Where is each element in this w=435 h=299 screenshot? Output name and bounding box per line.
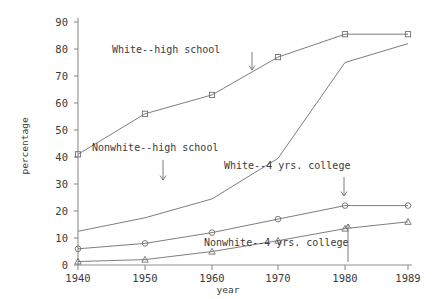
annotation-label: White--high school — [112, 44, 220, 55]
x-tick-label: 1950 — [132, 272, 157, 284]
y-tick-label: 90 — [55, 16, 68, 28]
y-tick-label: 80 — [55, 43, 68, 55]
line-chart: 0102030405060708090194019501960197019801… — [0, 0, 435, 299]
annotation-white-4yrs-college: White--4 yrs. college — [224, 160, 350, 196]
y-tick-label: 40 — [55, 151, 68, 163]
y-axis-title: percentage — [19, 117, 30, 174]
series-nonwhite-high-school — [78, 44, 408, 232]
x-axis-ticks: 194019501960197019801989 — [65, 265, 420, 284]
chart-container: 0102030405060708090194019501960197019801… — [0, 0, 435, 299]
x-tick-label: 1960 — [199, 272, 224, 284]
series-path — [78, 44, 408, 232]
y-tick-label: 50 — [55, 124, 68, 136]
y-tick-label: 10 — [55, 232, 68, 244]
y-tick-label: 60 — [55, 97, 68, 109]
data-point-marker — [405, 219, 411, 225]
y-tick-label: 20 — [55, 205, 68, 217]
annotation-label: Nonwhite--4 yrs. college — [204, 237, 349, 248]
y-tick-label: 30 — [55, 178, 68, 190]
y-tick-label: 0 — [62, 259, 68, 271]
y-axis-ticks: 0102030405060708090 — [55, 16, 78, 271]
annotation-nonwhite-high-school: Nonwhite--high school — [92, 142, 218, 180]
x-tick-label: 1989 — [395, 272, 420, 284]
annotation-label: Nonwhite--high school — [92, 142, 218, 153]
x-tick-label: 1940 — [65, 272, 90, 284]
x-axis-title: year — [217, 284, 240, 295]
annotation-label: White--4 yrs. college — [224, 160, 350, 171]
x-tick-label: 1980 — [332, 272, 357, 284]
y-tick-label: 70 — [55, 70, 68, 82]
x-tick-label: 1970 — [265, 272, 290, 284]
annotation-white-high-school: White--high school — [112, 44, 255, 70]
